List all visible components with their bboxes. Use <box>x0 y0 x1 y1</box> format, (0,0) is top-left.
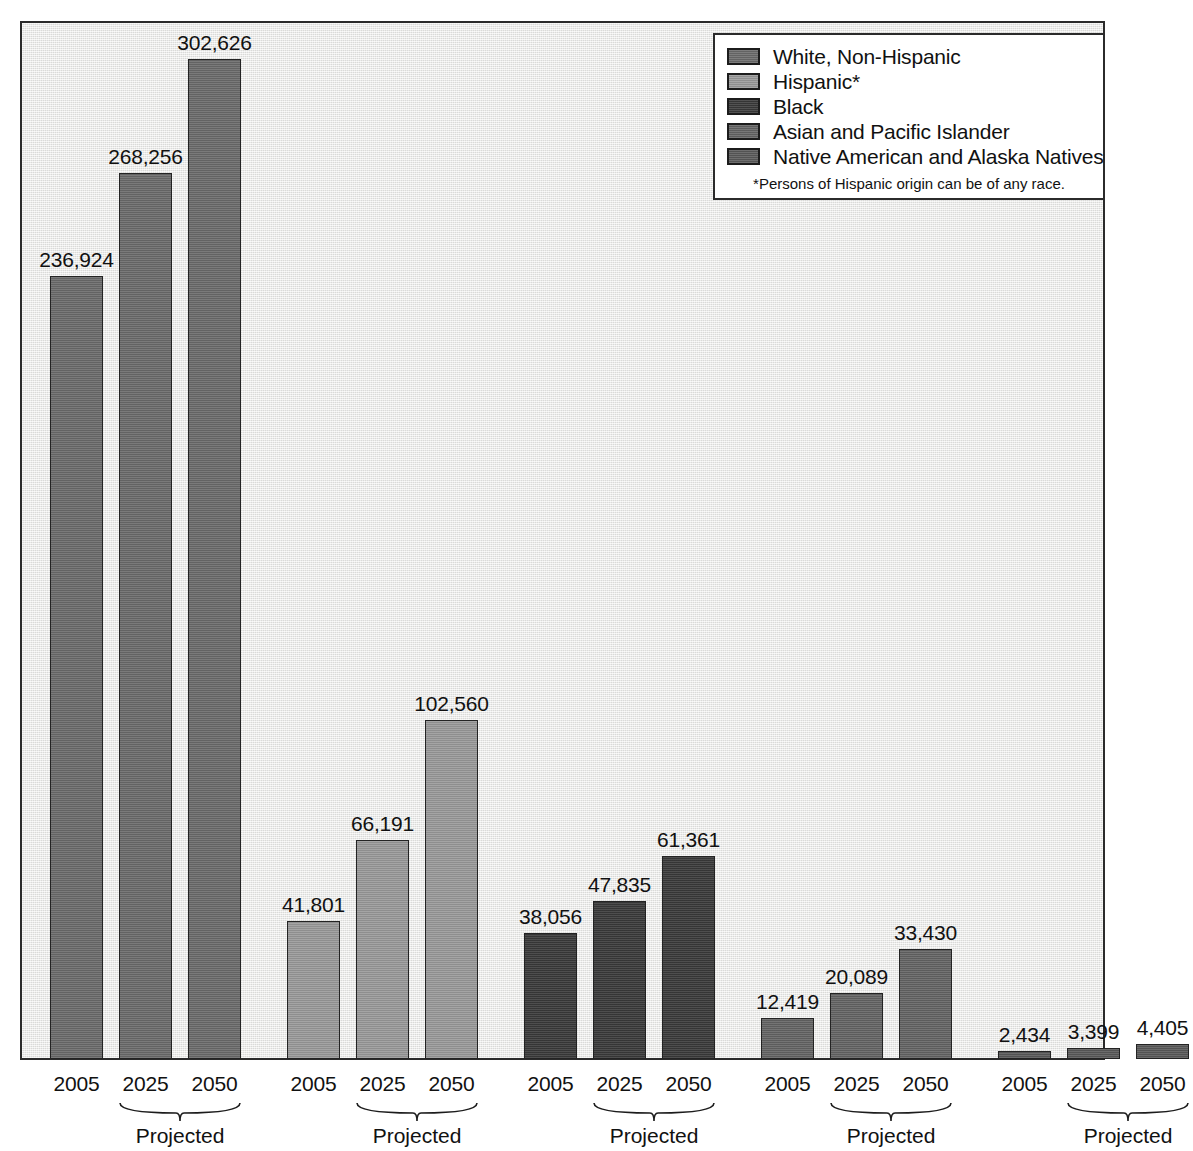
x-axis-year-label: 2025 <box>817 1072 897 1096</box>
legend-swatch-icon <box>727 73 760 90</box>
projected-brace <box>1067 1102 1189 1122</box>
bar <box>188 59 241 1059</box>
x-axis-year-label: 2005 <box>511 1072 591 1096</box>
bar <box>425 720 478 1059</box>
bar <box>761 1018 814 1059</box>
legend-item-label: Hispanic* <box>773 70 860 94</box>
bar <box>524 933 577 1059</box>
source-caption <box>0 1143 1139 1151</box>
x-axis-year-label: 2025 <box>343 1072 423 1096</box>
legend-item-label: Black <box>773 95 823 119</box>
legend-item: Native American and Alaska Natives <box>715 144 1103 169</box>
bar <box>356 840 409 1059</box>
bar <box>899 949 952 1059</box>
x-axis-year-label: 2050 <box>886 1072 966 1096</box>
legend-swatch-icon <box>727 48 760 65</box>
legend-item-label: Asian and Pacific Islander <box>773 120 1009 144</box>
legend-swatch-icon <box>727 98 760 115</box>
bar-value-label: 4,405 <box>1103 1016 1193 1040</box>
legend-item: White, Non-Hispanic <box>715 44 1103 69</box>
projected-brace <box>119 1102 241 1122</box>
bar <box>593 901 646 1059</box>
legend-item: Asian and Pacific Islander <box>715 119 1103 144</box>
x-axis-year-label: 2025 <box>580 1072 660 1096</box>
bar <box>50 276 103 1059</box>
bar <box>662 856 715 1059</box>
projected-brace <box>593 1102 715 1122</box>
x-axis-year-label: 2005 <box>748 1072 828 1096</box>
x-axis-year-label: 2005 <box>37 1072 117 1096</box>
x-axis-year-label: 2050 <box>649 1072 729 1096</box>
legend: White, Non-HispanicHispanic*BlackAsian a… <box>713 33 1105 200</box>
legend-item: Black <box>715 94 1103 119</box>
x-axis-year-label: 2050 <box>412 1072 492 1096</box>
x-axis-year-label: 2050 <box>175 1072 255 1096</box>
bar <box>1136 1044 1189 1059</box>
legend-swatch-icon <box>727 148 760 165</box>
legend-items: White, Non-HispanicHispanic*BlackAsian a… <box>715 44 1103 169</box>
x-axis-year-label: 2025 <box>1054 1072 1134 1096</box>
bar <box>1067 1048 1120 1059</box>
legend-footnote: *Persons of Hispanic origin can be of an… <box>715 175 1103 192</box>
legend-item-label: Native American and Alaska Natives <box>773 145 1104 169</box>
projected-brace <box>356 1102 478 1122</box>
bar <box>998 1051 1051 1059</box>
bar <box>830 993 883 1059</box>
x-axis-year-label: 2025 <box>106 1072 186 1096</box>
bar <box>119 173 172 1059</box>
legend-item: Hispanic* <box>715 69 1103 94</box>
x-axis-year-label: 2005 <box>985 1072 1065 1096</box>
bar <box>287 921 340 1059</box>
legend-swatch-icon <box>727 123 760 140</box>
legend-item-label: White, Non-Hispanic <box>773 45 961 69</box>
projected-brace <box>830 1102 952 1122</box>
x-axis-year-label: 2005 <box>274 1072 354 1096</box>
x-axis-year-label: 2050 <box>1123 1072 1193 1096</box>
